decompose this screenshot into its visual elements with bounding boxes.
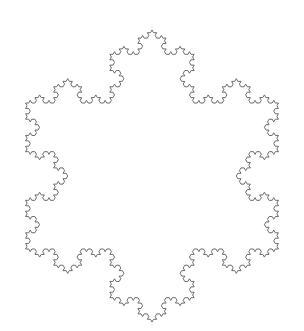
snowflake-outline [26,30,279,322]
koch-snowflake [0,0,304,331]
